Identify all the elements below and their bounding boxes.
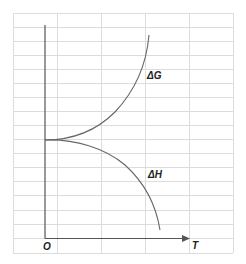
delta-g-curve [45, 35, 149, 140]
delta-g-label: ΔG [147, 71, 162, 81]
thermo-diagram [0, 0, 246, 264]
origin-label: O [43, 242, 51, 252]
delta-h-label: ΔH [148, 170, 162, 180]
x-axis-label: T [192, 241, 198, 251]
grid [13, 13, 234, 254]
x-axis-arrow-icon [182, 235, 190, 242]
